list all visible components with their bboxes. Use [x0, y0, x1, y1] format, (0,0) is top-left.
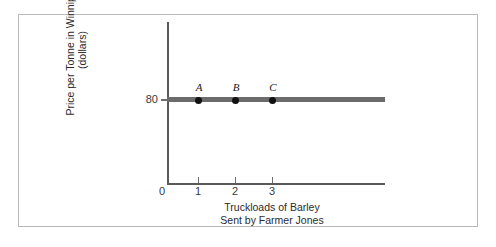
data-point-a — [195, 97, 202, 104]
x-tick-label-2: 2 — [225, 185, 245, 197]
x-axis-title: Truckloads of Barley Sent by Farmer Jone… — [172, 201, 372, 226]
y-axis-title-line2: (dollars) — [76, 0, 88, 130]
data-point-b — [232, 97, 239, 104]
y-axis-title-line1: Price per Tonne in Winnipeg — [64, 0, 76, 116]
chart-plot-area: 0 1 2 3 80 A B C Price per Tonne in Winn… — [0, 0, 496, 247]
x-tick-label-0: 0 — [152, 185, 172, 197]
x-axis-title-line2: Sent by Farmer Jones — [172, 214, 372, 227]
data-point-label-b: B — [224, 81, 248, 93]
x-tick-label-1: 1 — [188, 185, 208, 197]
x-tick-label-3: 3 — [262, 185, 282, 197]
x-tick-1 — [198, 177, 199, 183]
x-tick-2 — [235, 177, 236, 183]
data-point-label-c: C — [261, 81, 285, 93]
x-tick-3 — [272, 177, 273, 183]
data-point-label-a: A — [187, 81, 211, 93]
data-point-c — [269, 97, 276, 104]
y-axis-title: Price per Tonne in Winnipeg (dollars) — [64, 0, 88, 130]
y-axis-line — [167, 22, 169, 184]
y-tick-label-80: 80 — [138, 93, 158, 105]
x-axis-title-line1: Truckloads of Barley — [224, 201, 319, 213]
